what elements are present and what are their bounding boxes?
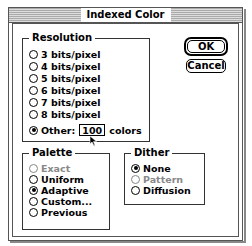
radio-8-bits[interactable]: 8 bits/pixel — [29, 108, 101, 120]
radio-icon — [29, 110, 38, 119]
radio-icon — [29, 86, 38, 95]
resolution-label: Resolution — [29, 32, 95, 44]
title-bar[interactable]: Indexed Color — [9, 8, 242, 23]
radio-icon — [29, 197, 38, 206]
mouse-pointer-icon — [89, 135, 99, 147]
radio-5-bits[interactable]: 5 bits/pixel — [29, 72, 101, 84]
radio-selected-icon — [29, 126, 38, 135]
palette-group: Palette Exact Uniform Adaptive Custom...… — [22, 153, 110, 230]
dither-label: Dither — [131, 147, 172, 159]
dialog-title: Indexed Color — [80, 8, 170, 22]
radio-icon — [29, 62, 38, 71]
radio-icon — [29, 164, 38, 173]
ok-button[interactable]: OK — [187, 40, 225, 53]
colors-suffix-label: colors — [109, 125, 141, 136]
radio-icon — [29, 175, 38, 184]
radio-icon — [29, 208, 38, 217]
radio-icon — [131, 186, 140, 195]
palette-label: Palette — [29, 147, 75, 159]
radio-icon — [29, 98, 38, 107]
dither-group: Dither None Pattern Diffusion — [124, 153, 205, 205]
radio-icon — [29, 74, 38, 83]
radio-selected-icon — [131, 164, 140, 173]
radio-diffusion[interactable]: Diffusion — [131, 184, 191, 196]
radio-6-bits[interactable]: 6 bits/pixel — [29, 84, 101, 96]
radio-icon — [131, 175, 140, 184]
radio-other[interactable]: Other: 100 colors — [29, 124, 142, 136]
resolution-group: Resolution 3 bits/pixel 4 bits/pixel 5 b… — [22, 38, 150, 142]
radio-4-bits[interactable]: 4 bits/pixel — [29, 60, 101, 72]
radio-icon — [29, 50, 38, 59]
radio-3-bits[interactable]: 3 bits/pixel — [29, 48, 101, 60]
radio-selected-icon — [29, 186, 38, 195]
radio-previous[interactable]: Previous — [29, 206, 87, 218]
cancel-button[interactable]: Cancel — [186, 59, 226, 73]
radio-7-bits[interactable]: 7 bits/pixel — [29, 96, 101, 108]
